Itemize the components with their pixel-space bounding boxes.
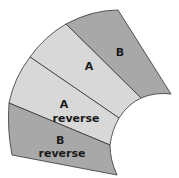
label-b: B [116, 46, 124, 59]
label-a: A [85, 60, 94, 73]
curved-bands-diagram: B A A reverse B reverse [0, 0, 179, 178]
